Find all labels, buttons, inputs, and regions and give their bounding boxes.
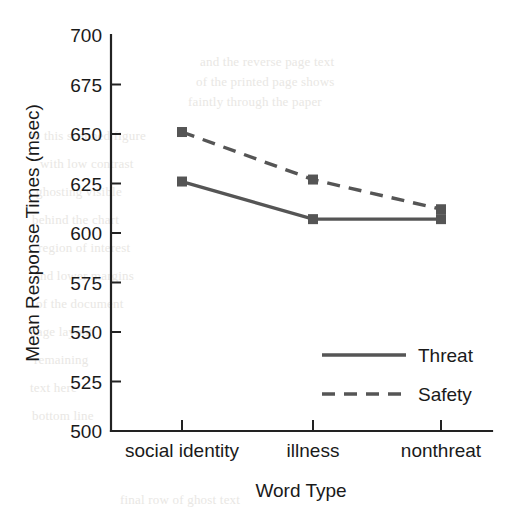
legend-label-threat[interactable]: Threat <box>418 345 474 366</box>
data-point-marker <box>177 177 187 187</box>
series-line-safety <box>182 132 441 209</box>
y-tick-label: 650 <box>70 124 102 145</box>
chart-legend[interactable]: ThreatSafety <box>322 345 474 405</box>
y-tick-label: 700 <box>70 25 102 46</box>
x-tick-label: nonthreat <box>401 440 482 461</box>
data-point-marker <box>436 204 446 214</box>
y-ticks: 700675650625600575550525500 <box>70 25 121 442</box>
chart-figure: and the reverse page textof the printed … <box>0 0 511 516</box>
data-series <box>177 127 446 224</box>
x-axis-title: Word Type <box>255 480 346 501</box>
y-tick-label: 525 <box>70 372 102 393</box>
data-point-marker <box>308 175 318 185</box>
y-tick-label: 550 <box>70 322 102 343</box>
x-ticks: social identityillnessnonthreat <box>125 420 482 461</box>
y-tick-label: 625 <box>70 174 102 195</box>
x-tick-label: illness <box>287 440 340 461</box>
legend-label-safety[interactable]: Safety <box>418 384 472 405</box>
line-chart: 700675650625600575550525500 social ident… <box>0 0 511 516</box>
y-tick-label: 600 <box>70 223 102 244</box>
data-point-marker <box>177 127 187 137</box>
data-point-marker <box>308 214 318 224</box>
y-tick-label: 575 <box>70 273 102 294</box>
y-axis-title: Mean Response Times (msec) <box>22 104 43 362</box>
data-point-marker <box>436 214 446 224</box>
y-tick-label: 500 <box>70 421 102 442</box>
x-tick-label: social identity <box>125 440 240 461</box>
y-tick-label: 675 <box>70 75 102 96</box>
axes <box>111 35 492 431</box>
